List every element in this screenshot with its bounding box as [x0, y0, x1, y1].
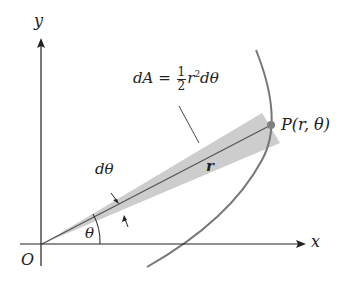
point-P-label: P(r, θ)	[281, 117, 330, 133]
radius-label: r	[206, 159, 214, 174]
dtheta-label: dθ	[95, 162, 114, 177]
polar-area-diagram	[0, 0, 361, 284]
area-wedge	[42, 113, 280, 244]
area-formula: dA = 1 2 r2dθ	[133, 66, 219, 92]
theta-label: θ	[85, 226, 94, 241]
formula-fraction: 1 2	[177, 66, 187, 92]
fraction-numerator: 1	[177, 66, 187, 80]
radius-line	[42, 125, 271, 244]
y-axis-label: y	[34, 13, 43, 29]
formula-lhs: dA =	[133, 69, 171, 87]
formula-leader-line	[179, 106, 199, 143]
origin-label: O	[21, 252, 34, 268]
fraction-denominator: 2	[178, 80, 186, 93]
formula-tail: dθ	[200, 69, 219, 87]
point-P	[267, 121, 275, 129]
x-axis-label: x	[311, 234, 320, 250]
